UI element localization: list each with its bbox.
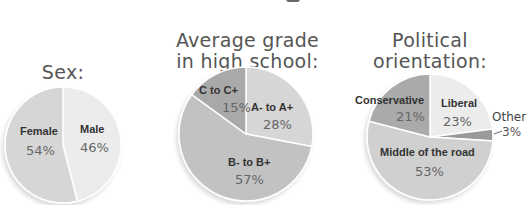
c-label: C to C+ bbox=[199, 84, 238, 96]
other-pct: 3% bbox=[502, 125, 521, 139]
other-leader-line bbox=[494, 131, 502, 134]
c-pct: 15% bbox=[222, 100, 251, 115]
b-pct: 57% bbox=[235, 172, 264, 187]
b-label: B- to B+ bbox=[228, 156, 270, 168]
middle-pct: 53% bbox=[415, 164, 444, 179]
a-label: A- to A+ bbox=[251, 101, 293, 113]
liberal-label: Liberal bbox=[441, 97, 477, 109]
female-pct: 54% bbox=[26, 143, 55, 158]
a-pct: 28% bbox=[263, 117, 292, 132]
pie-charts: Female 54% Male 46% C to C+ 15% A- to A+… bbox=[0, 0, 528, 205]
other-label: Other bbox=[492, 110, 526, 124]
male-pct: 46% bbox=[80, 140, 109, 155]
political-pie bbox=[367, 74, 493, 200]
conservative-label: Conservative bbox=[355, 94, 424, 106]
female-label: Female bbox=[20, 125, 58, 137]
liberal-pct: 23% bbox=[443, 114, 472, 129]
middle-label: Middle of the road bbox=[380, 146, 475, 158]
conservative-pct: 21% bbox=[396, 109, 425, 124]
male-label: Male bbox=[80, 123, 104, 135]
